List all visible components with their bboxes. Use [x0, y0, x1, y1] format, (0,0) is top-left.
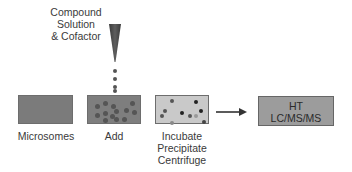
- falling-drop: [113, 89, 117, 93]
- compound-label-line-2: Solution: [46, 18, 106, 30]
- particle: [188, 114, 192, 118]
- particle: [199, 109, 203, 113]
- incubate-label-line-1: Incubate: [146, 130, 218, 142]
- particle: [170, 99, 174, 103]
- incubate-label: Incubate Precipitate Centrifuge: [146, 130, 218, 166]
- analysis-label-line-2: LC/MS/MS: [259, 112, 333, 124]
- arrow-right-icon: [214, 106, 248, 118]
- analysis-box: HT LC/MS/MS: [258, 96, 334, 126]
- particle: [160, 114, 164, 118]
- add-box: [87, 95, 141, 124]
- analysis-label-line-1: HT: [259, 100, 333, 112]
- compound-label: Compound Solution & Cofactor: [46, 6, 106, 42]
- particle: [124, 108, 129, 113]
- particle: [130, 101, 135, 106]
- incubate-label-line-2: Precipitate: [146, 142, 218, 154]
- particle: [114, 109, 119, 114]
- compound-label-line-1: Compound: [46, 6, 106, 18]
- particle: [103, 111, 108, 116]
- particle: [194, 114, 198, 118]
- particle: [170, 121, 174, 125]
- particle: [163, 109, 167, 113]
- particle: [194, 100, 198, 104]
- particle: [103, 101, 108, 106]
- particle: [95, 113, 100, 118]
- add-label: Add: [87, 130, 141, 142]
- particle: [180, 111, 184, 115]
- particle: [103, 118, 108, 123]
- analysis-label: HT LC/MS/MS: [259, 100, 333, 124]
- particle: [202, 120, 206, 124]
- particle: [95, 104, 100, 109]
- compound-label-line-3: & Cofactor: [46, 30, 106, 42]
- particle: [114, 117, 119, 122]
- microsomes-label: Microsomes: [10, 130, 82, 142]
- microsomes-box: [18, 95, 73, 124]
- particle: [132, 110, 137, 115]
- particle: [122, 117, 127, 122]
- incubate-box: [155, 95, 209, 124]
- dropper-icon: [108, 22, 122, 92]
- incubate-label-line-3: Centrifuge: [146, 154, 218, 166]
